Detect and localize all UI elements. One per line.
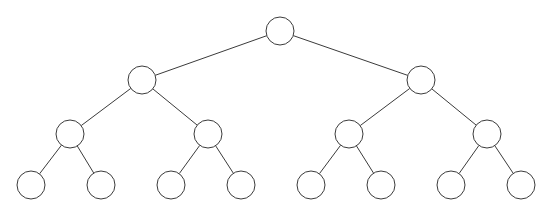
tree-node-internal[interactable]: [128, 66, 156, 94]
tree-node-root[interactable]: [266, 17, 294, 45]
tree-edge: [495, 146, 513, 174]
tree-edge: [77, 146, 93, 173]
tree-node-circle[interactable]: [367, 171, 395, 199]
tree-node-leaf[interactable]: [437, 171, 465, 199]
tree-node-circle[interactable]: [87, 171, 115, 199]
tree-node-leaf[interactable]: [297, 171, 325, 199]
tree-node-internal[interactable]: [407, 66, 435, 94]
tree-node-internal[interactable]: [194, 120, 222, 148]
tree-node-internal[interactable]: [335, 120, 363, 148]
tree-edge: [179, 145, 200, 173]
tree-edge: [81, 88, 131, 125]
tree-node-leaf[interactable]: [227, 171, 255, 199]
node-layer: [17, 17, 535, 199]
tree-edge: [356, 146, 373, 173]
tree-edge: [293, 36, 408, 76]
edge-layer: [40, 36, 514, 174]
tree-edge: [432, 89, 476, 125]
tree-edge: [155, 36, 267, 76]
tree-node-circle[interactable]: [194, 120, 222, 148]
tree-node-circle[interactable]: [17, 171, 45, 199]
tree-node-circle[interactable]: [56, 120, 84, 148]
tree-node-leaf[interactable]: [87, 171, 115, 199]
tree-node-leaf[interactable]: [367, 171, 395, 199]
tree-node-internal[interactable]: [473, 120, 501, 148]
tree-edge: [319, 145, 340, 174]
tree-node-leaf[interactable]: [507, 171, 535, 199]
binary-tree-canvas: [0, 0, 545, 215]
tree-node-circle[interactable]: [473, 120, 501, 148]
tree-node-circle[interactable]: [157, 171, 185, 199]
tree-node-internal[interactable]: [56, 120, 84, 148]
tree-edge: [216, 146, 234, 174]
tree-node-circle[interactable]: [507, 171, 535, 199]
tree-node-circle[interactable]: [128, 66, 156, 94]
tree-edge: [40, 145, 62, 174]
tree-node-circle[interactable]: [297, 171, 325, 199]
tree-node-circle[interactable]: [227, 171, 255, 199]
tree-node-circle[interactable]: [437, 171, 465, 199]
binary-tree-figure: [0, 0, 545, 215]
tree-node-circle[interactable]: [335, 120, 363, 148]
tree-node-circle[interactable]: [266, 17, 294, 45]
tree-edge: [459, 145, 479, 173]
tree-edge: [153, 89, 197, 125]
tree-edge: [360, 88, 410, 125]
tree-node-leaf[interactable]: [157, 171, 185, 199]
tree-node-leaf[interactable]: [17, 171, 45, 199]
tree-node-circle[interactable]: [407, 66, 435, 94]
